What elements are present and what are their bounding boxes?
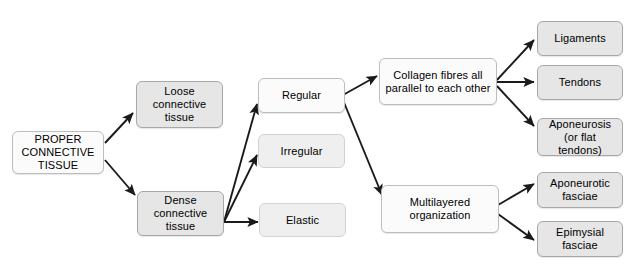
edge-regular-to-multilayered: [343, 100, 382, 195]
node-label: Ligaments: [554, 32, 606, 45]
node-collagen-fibres[interactable]: Collagen fibres all parallel to each oth…: [379, 58, 497, 105]
edge-collagen-to-ligaments: [497, 40, 534, 80]
flowchart-canvas: PROPER CONNECTIVE TISSUE Loose connectiv…: [0, 0, 638, 266]
edge-multilayered-to-epimysial-fasciae: [498, 214, 534, 240]
node-ligaments[interactable]: Ligaments: [537, 21, 623, 56]
node-label: Dense connective tissue: [154, 194, 208, 233]
node-label: Irregular: [281, 145, 323, 158]
edge-root-to-loose: [105, 113, 133, 143]
node-proper-connective-tissue[interactable]: PROPER CONNECTIVE TISSUE: [12, 131, 104, 174]
node-multilayered-organization[interactable]: Multilayered organization: [381, 185, 499, 233]
node-label: Elastic: [286, 214, 319, 227]
node-regular[interactable]: Regular: [258, 78, 345, 113]
node-loose-connective-tissue[interactable]: Loose connective tissue: [136, 81, 223, 128]
node-elastic[interactable]: Elastic: [259, 203, 346, 237]
edge-dense-to-regular: [224, 104, 257, 222]
node-aponeurosis[interactable]: Aponeurosis (or flat tendons): [537, 118, 623, 156]
edge-multilayered-to-aponeurotic-fasciae: [498, 184, 534, 205]
edge-root-to-dense: [105, 160, 135, 195]
node-aponeurotic-fasciae[interactable]: Aponeurotic fasciae: [537, 172, 623, 208]
node-label: Regular: [282, 89, 321, 102]
node-label: Tendons: [559, 76, 601, 89]
node-label: Epimysial fasciae: [556, 226, 604, 252]
node-epimysial-fasciae[interactable]: Epimysial fasciae: [537, 221, 623, 257]
node-label: Loose connective tissue: [153, 85, 207, 124]
node-label: Collagen fibres all parallel to each oth…: [386, 69, 491, 95]
node-label: Multilayered organization: [409, 196, 470, 222]
edge-collagen-to-aponeurosis: [497, 86, 534, 126]
node-label: PROPER CONNECTIVE TISSUE: [21, 133, 94, 172]
node-dense-connective-tissue[interactable]: Dense connective tissue: [137, 191, 224, 236]
node-label: Aponeurotic fasciae: [550, 177, 610, 203]
edge-dense-to-irregular: [224, 155, 257, 222]
edge-regular-to-collagen: [343, 76, 377, 95]
node-label: Aponeurosis (or flat tendons): [541, 118, 619, 157]
node-tendons[interactable]: Tendons: [537, 65, 623, 100]
node-irregular[interactable]: Irregular: [258, 134, 345, 168]
